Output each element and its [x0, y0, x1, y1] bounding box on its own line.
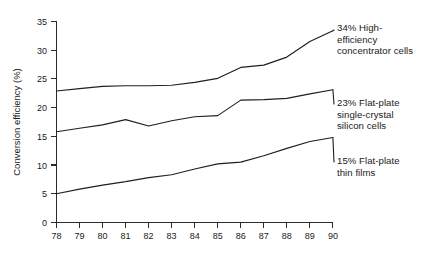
- series-line-single-crystal-silicon: [57, 90, 333, 132]
- y-tick-label-5: 5: [42, 189, 47, 199]
- x-tick-label-83: 83: [167, 231, 177, 241]
- leader-line-concentrator-cells: [333, 30, 334, 31]
- y-tick-label-25: 25: [37, 74, 47, 84]
- x-tick-label-80: 80: [97, 231, 107, 241]
- x-tick-label-87: 87: [259, 231, 269, 241]
- x-tick-label-90: 90: [328, 231, 338, 241]
- x-tick-label-89: 89: [305, 231, 315, 241]
- series-line-concentrator-cells: [57, 31, 333, 91]
- solar-cell-efficiency-chart: Conversion efficiency (%) 35 30 25 20 15…: [0, 0, 443, 264]
- x-tick-label-85: 85: [213, 231, 223, 241]
- x-tick-label-86: 86: [236, 231, 246, 241]
- x-tick-label-78: 78: [51, 231, 61, 241]
- y-axis-ticks: [51, 22, 57, 223]
- x-tick-label-88: 88: [282, 231, 292, 241]
- leader-line-single-crystal-silicon: [333, 90, 334, 104]
- y-tick-label-10: 10: [37, 161, 47, 171]
- series-annotation-concentrator-cells: 34% High- efficiency concentrator cells: [337, 22, 441, 57]
- leader-line-thin-films: [333, 137, 334, 162]
- x-tick-label-81: 81: [121, 231, 131, 241]
- y-axis-title: Conversion efficiency (%): [11, 68, 22, 176]
- x-axis-ticks: [57, 223, 333, 229]
- y-tick-label-30: 30: [37, 46, 47, 56]
- y-tick-label-0: 0: [42, 218, 47, 228]
- series-annotation-thin-films: 15% Flat-plate thin films: [337, 155, 441, 178]
- x-tick-label-82: 82: [144, 231, 154, 241]
- y-tick-label-35: 35: [37, 17, 47, 27]
- y-tick-label-15: 15: [37, 132, 47, 142]
- y-tick-label-20: 20: [37, 103, 47, 113]
- series-annotation-single-crystal-silicon: 23% Flat-plate single-crystal silicon ce…: [337, 97, 441, 132]
- x-tick-label-79: 79: [74, 231, 84, 241]
- x-tick-label-84: 84: [190, 231, 200, 241]
- series-line-thin-films: [57, 137, 333, 193]
